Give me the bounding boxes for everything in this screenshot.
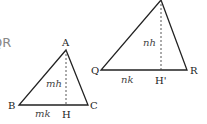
triangle-qr: Q R H' nh nk <box>91 0 198 86</box>
vertex-label-r: R <box>190 65 198 76</box>
base-label-mk: mk <box>35 108 51 119</box>
cropped-text-fragment: QR <box>0 35 11 50</box>
foot-label-h-prime: H' <box>155 75 166 86</box>
height-label-nh: nh <box>143 37 156 48</box>
vertex-label-b: B <box>8 100 15 111</box>
base-label-nk: nk <box>121 74 134 85</box>
height-label-mh: mh <box>46 78 62 89</box>
vertex-label-c: C <box>90 100 98 111</box>
vertex-label-q: Q <box>91 65 99 76</box>
similar-triangles-diagram: QR A B C H mh mk Q R H' nh nk <box>0 0 207 124</box>
triangle-qr-outline <box>101 0 187 70</box>
vertex-label-a: A <box>61 37 70 48</box>
foot-label-h: H <box>62 109 71 120</box>
triangle-abc: A B C H mh mk <box>8 37 98 120</box>
